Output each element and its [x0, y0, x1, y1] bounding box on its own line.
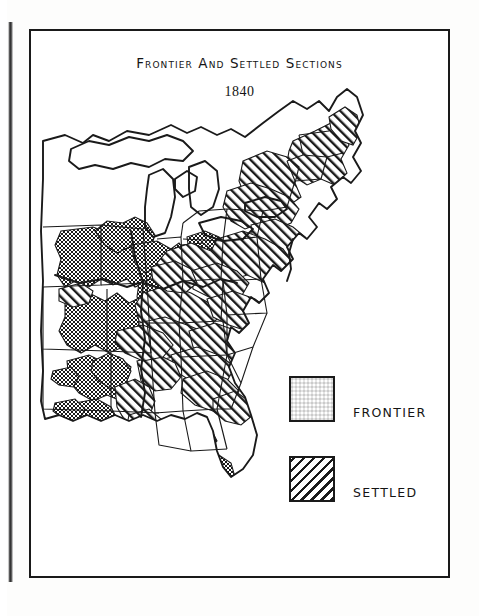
legend-row-settled: SETTLED: [289, 456, 439, 502]
map-legend: FRONTIER SETTLED: [289, 376, 439, 536]
legend-label-frontier: FRONTIER: [353, 405, 426, 422]
scan-page-edge: [0, 0, 7, 616]
scan-binding-gutter: [8, 22, 13, 582]
legend-swatch-frontier: [289, 376, 335, 422]
legend-swatch-settled: [289, 456, 335, 502]
legend-row-frontier: FRONTIER: [289, 376, 439, 422]
legend-label-settled: SETTLED: [353, 485, 417, 502]
map-plate-frame: Frontier and Settled Sections 1840: [29, 29, 450, 578]
